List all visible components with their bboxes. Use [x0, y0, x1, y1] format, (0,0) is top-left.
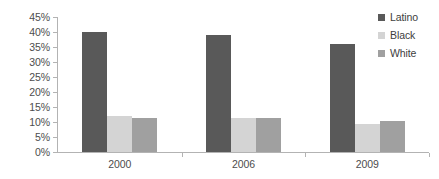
y-axis-tick-mark	[53, 32, 57, 33]
y-axis-tick-label: 20%	[0, 87, 50, 97]
legend-item-latino[interactable]: Latino	[378, 10, 439, 25]
bar-group	[206, 17, 281, 152]
y-axis-tick-label: 5%	[0, 132, 50, 142]
x-axis-category-label: 2000	[58, 158, 182, 170]
legend-label: White	[390, 48, 416, 59]
y-axis-tick-mark	[53, 152, 57, 153]
y-axis-tick-label: 30%	[0, 57, 50, 67]
bar-group	[82, 17, 157, 152]
y-axis-tick-label: 0%	[0, 147, 50, 157]
x-axis-tick-mark	[305, 153, 306, 157]
chart-legend: LatinoBlackWhite	[378, 10, 439, 64]
bar-latino-2000	[82, 32, 107, 152]
x-axis-line	[57, 152, 429, 153]
plot-area	[58, 17, 429, 152]
y-axis-labels: 0%5%10%15%20%25%30%35%40%45%	[0, 11, 50, 157]
y-axis-tick-mark	[53, 17, 57, 18]
y-axis-tick-mark	[53, 122, 57, 123]
y-axis-tick-mark	[53, 77, 57, 78]
bar-latino-2009	[330, 44, 355, 152]
legend-label: Latino	[390, 12, 418, 23]
x-axis-labels: 200020062009	[58, 158, 429, 178]
bar-white-2000	[132, 118, 157, 153]
y-axis-tick-label: 45%	[0, 12, 50, 22]
x-axis-tick-mark	[182, 153, 183, 157]
y-axis-tick-mark	[53, 137, 57, 138]
y-axis-tick-mark	[53, 62, 57, 63]
y-axis-tick-mark	[53, 107, 57, 108]
x-axis-category-label: 2006	[182, 158, 306, 170]
bar-black-2000	[107, 116, 132, 152]
bar-black-2009	[355, 124, 380, 153]
legend-swatch-icon	[378, 50, 385, 57]
bar-black-2006	[231, 118, 256, 153]
y-axis-tick-label: 15%	[0, 102, 50, 112]
x-axis-category-label: 2009	[305, 158, 429, 170]
bar-white-2006	[256, 118, 281, 153]
legend-swatch-icon	[378, 14, 385, 21]
y-axis-tick-mark	[53, 47, 57, 48]
bar-chart: 0%5%10%15%20%25%30%35%40%45% 20002006200…	[0, 0, 439, 179]
y-axis-tick-label: 40%	[0, 27, 50, 37]
legend-swatch-icon	[378, 32, 385, 39]
y-axis-tick-label: 10%	[0, 117, 50, 127]
y-axis-tick-mark	[53, 92, 57, 93]
y-axis-tick-label: 25%	[0, 72, 50, 82]
bar-white-2009	[380, 121, 405, 153]
legend-item-white[interactable]: White	[378, 46, 439, 61]
y-axis-tick-label: 35%	[0, 42, 50, 52]
bar-latino-2006	[206, 35, 231, 152]
legend-label: Black	[390, 30, 415, 41]
x-axis-tick-mark	[429, 153, 430, 157]
legend-item-black[interactable]: Black	[378, 28, 439, 43]
